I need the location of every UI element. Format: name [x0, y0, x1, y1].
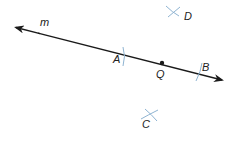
label-m: m	[40, 17, 49, 28]
geometry-canvas	[0, 0, 228, 143]
label-d: D	[184, 11, 192, 22]
line-m	[16, 28, 40, 34]
label-a: A	[113, 54, 120, 65]
line-m-body	[38, 33, 222, 80]
arc-a	[123, 47, 125, 66]
cross-d	[166, 6, 180, 17]
label-c: C	[142, 119, 150, 130]
label-b: B	[202, 62, 209, 73]
point-q	[160, 61, 164, 65]
label-q: Q	[156, 69, 165, 80]
